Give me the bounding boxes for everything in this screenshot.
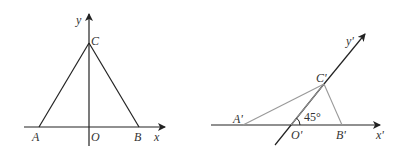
label-angle: 45° [304,110,321,124]
label-y: y [75,13,82,27]
side-b-c-prime [324,84,342,125]
label-a: A [31,130,40,144]
label-c-prime: C' [316,71,327,85]
figure-left: y C A O B x [24,13,165,146]
label-o: O [91,130,100,144]
angle-arc-45 [297,118,301,125]
label-y-prime: y' [345,34,354,48]
label-b-prime: B' [336,128,346,142]
label-o-prime: O' [291,128,303,142]
label-x-prime: x' [375,128,384,142]
y-prime-axis-upper [324,34,365,84]
figure-right: y' C' A' 45° O' B' x' [211,34,384,145]
label-b: B [134,130,142,144]
label-a-prime: A' [232,112,243,126]
side-ac [39,43,89,127]
label-x: x [153,130,160,144]
diagram-canvas: y C A O B x y' C' A' 45° O' B' x' [0,0,408,155]
side-bc [89,43,139,127]
label-c: C [91,34,100,48]
